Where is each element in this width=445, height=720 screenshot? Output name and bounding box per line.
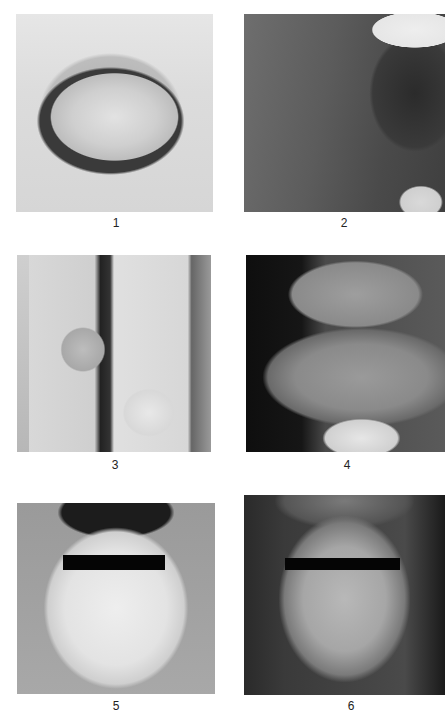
censor-bar-5 xyxy=(63,555,165,570)
panel-label-2: 2 xyxy=(324,216,364,230)
photo-panel-5-face xyxy=(17,503,215,694)
panel-label-4: 4 xyxy=(327,458,367,472)
photo-panel-2-cheek xyxy=(244,14,445,212)
panel-label-3: 3 xyxy=(95,458,135,472)
photo-panel-1-tongue xyxy=(16,14,213,212)
photo-panel-3-fingernails xyxy=(17,255,211,452)
photo-panel-6-face xyxy=(244,495,445,695)
panel-label-5: 5 xyxy=(96,699,136,713)
panel-label-1: 1 xyxy=(96,216,136,230)
censor-bar-6 xyxy=(285,558,400,570)
photo-panel-4-lip xyxy=(246,255,445,452)
panel-label-6: 6 xyxy=(331,699,371,713)
